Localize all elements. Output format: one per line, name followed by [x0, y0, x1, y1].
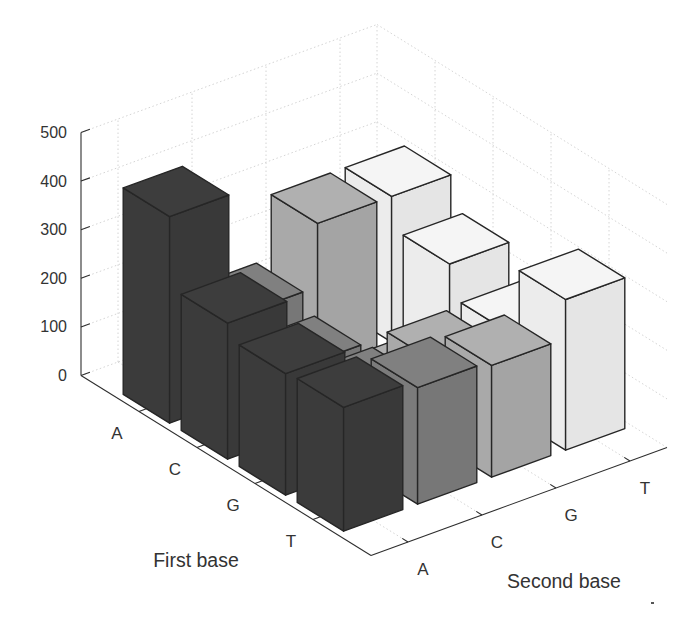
first-base-tick [197, 445, 204, 448]
first-base-tick-label: C [169, 460, 181, 479]
second-base-tick-label: C [491, 533, 503, 552]
first-base-tick [255, 481, 262, 484]
first-base-tick-label: G [226, 496, 239, 515]
z-axis-tick [81, 275, 90, 278]
bar3d-chart: 0100200300400500ACGTACGT First base Seco… [0, 0, 689, 633]
bars [123, 146, 625, 531]
first-base-tick [313, 517, 320, 520]
z-tick-label: 100 [40, 318, 67, 335]
second-base-tick [402, 538, 408, 542]
back-wall-left-gridline [81, 25, 377, 133]
second-base-tick [624, 457, 630, 461]
first-base-tick-label: T [286, 532, 296, 551]
bar-left-face [123, 188, 169, 423]
z-tick-label: 0 [58, 367, 67, 384]
first-base-axis-title: First base [153, 549, 239, 571]
second-base-tick [476, 511, 482, 515]
second-base-axis-title: Second base [507, 570, 621, 592]
second-base-tick [550, 484, 556, 488]
first-base-tick [139, 409, 146, 412]
back-wall-left-gridline [81, 73, 377, 181]
bar-front-face [566, 278, 625, 450]
second-base-tick-label: T [640, 479, 650, 498]
bar-front-face [418, 366, 477, 504]
z-tick-label: 500 [40, 124, 67, 141]
z-axis-tick [81, 372, 90, 375]
z-tick-label: 400 [40, 173, 67, 190]
bar-front-face [492, 344, 551, 477]
second-base-tick-label: A [417, 560, 429, 579]
chart-figure: 0100200300400500ACGTACGT First base Seco… [0, 0, 689, 633]
z-tick-label: 200 [40, 270, 67, 287]
z-axis-tick [81, 129, 90, 132]
first-base-tick-label: A [111, 424, 123, 443]
stray-mark [651, 602, 654, 604]
bar-front-face [344, 386, 403, 532]
bar-TA [297, 357, 403, 531]
z-tick-label: 300 [40, 221, 67, 238]
z-axis-tick [81, 178, 90, 181]
second-base-tick-label: G [564, 506, 577, 525]
z-axis-tick [81, 324, 90, 327]
z-axis-tick [81, 226, 90, 229]
